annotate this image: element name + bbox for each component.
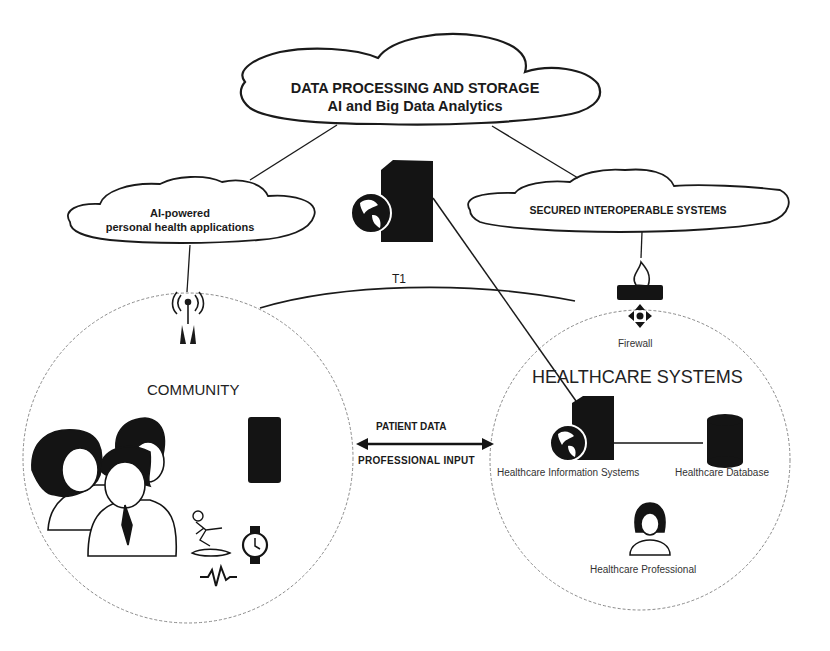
ai-powered-label: AI-powered: [70, 206, 290, 220]
cloud-server-icon: [351, 160, 433, 242]
link-top-left: [250, 125, 337, 180]
smartwatch-icon: [243, 526, 267, 564]
firewall-label: Firewall: [618, 338, 652, 349]
healthcare-professional-icon: [630, 503, 670, 555]
database-label: Healthcare Database: [675, 467, 769, 478]
link-top-right: [492, 126, 578, 178]
personal-apps-label: personal health applications: [70, 220, 290, 234]
t1-link: [260, 287, 575, 308]
antenna-icon: [173, 292, 204, 344]
personal-apps-cloud-label: AI-powered personal health applications: [70, 206, 290, 234]
firewall-icon: [617, 262, 663, 328]
heartbeat-icon: [200, 567, 237, 586]
his-server-icon: [550, 396, 614, 461]
community-title: COMMUNITY: [147, 381, 240, 398]
his-label: Healthcare Information Systems: [497, 467, 639, 478]
patient-data-label: PATIENT DATA: [376, 421, 446, 432]
right-cloud: [468, 170, 789, 232]
data-processing-title: DATA PROCESSING AND STORAGE: [265, 79, 565, 97]
professional-input-label: PROFESSIONAL INPUT: [358, 455, 475, 466]
fall-detection-icon: [192, 511, 230, 556]
data-processing-cloud-label: DATA PROCESSING AND STORAGE AI and Big D…: [265, 79, 565, 115]
healthcare-professional-label: Healthcare Professional: [590, 564, 696, 575]
secured-systems-label: SECURED INTEROPERABLE SYSTEMS: [518, 204, 738, 216]
healthcare-systems-title: HEALTHCARE SYSTEMS: [532, 367, 743, 388]
smartphone-icon: [248, 417, 281, 483]
people-group-icon: [32, 418, 176, 556]
t1-label: T1: [392, 272, 406, 286]
link-secured-firewall: [641, 232, 642, 258]
exchange-arrow: [356, 438, 494, 450]
database-icon: [707, 414, 743, 468]
ai-analytics-subtitle: AI and Big Data Analytics: [265, 97, 565, 115]
link-app-antenna: [187, 245, 190, 292]
